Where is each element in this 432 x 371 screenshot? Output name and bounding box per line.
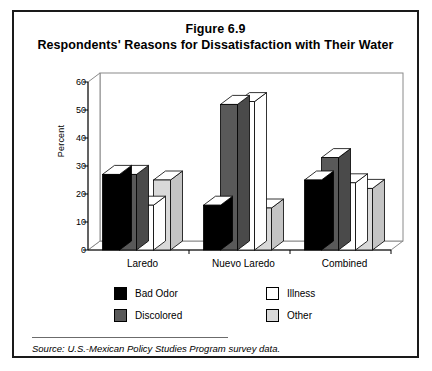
legend-entry: Other bbox=[266, 309, 312, 322]
legend-label: Bad Odor bbox=[135, 288, 178, 299]
legend-label: Discolored bbox=[135, 310, 182, 321]
title-line-text: Respondents' Reasons for Dissatisfaction… bbox=[14, 37, 417, 53]
x-axis-category-label: Nuevo Laredo bbox=[212, 258, 275, 269]
chart-legend: Bad OdorDiscoloredIllnessOther bbox=[114, 287, 364, 333]
plot-left-wall bbox=[88, 73, 100, 250]
source-note: Source: U.S.-Mexican Policy Studies Prog… bbox=[32, 343, 280, 354]
bar-chart-svg bbox=[62, 62, 407, 277]
legend-swatch-other bbox=[266, 309, 279, 322]
x-axis-category-label: Combined bbox=[322, 258, 368, 269]
legend-entry: Illness bbox=[266, 287, 315, 300]
x-axis-category-label: Laredo bbox=[127, 258, 158, 269]
legend-entry: Discolored bbox=[114, 309, 182, 322]
figure-frame: Figure 6.9 Respondents' Reasons for Diss… bbox=[12, 10, 419, 358]
legend-swatch-bad-odor bbox=[114, 287, 127, 300]
legend-swatch-discolored bbox=[114, 309, 127, 322]
legend-label: Other bbox=[287, 310, 312, 321]
title-line-number: Figure 6.9 bbox=[14, 21, 417, 37]
x-axis-category-labels: LaredoNuevo LaredoCombined bbox=[62, 258, 407, 278]
legend-swatch-illness bbox=[266, 287, 279, 300]
legend-entry: Bad Odor bbox=[114, 287, 178, 300]
source-divider bbox=[32, 337, 228, 338]
bar-bad-odor bbox=[103, 165, 132, 250]
bar-bad-odor bbox=[204, 196, 233, 250]
bar-bad-odor bbox=[305, 171, 334, 250]
legend-label: Illness bbox=[287, 288, 315, 299]
figure-title: Figure 6.9 Respondents' Reasons for Diss… bbox=[14, 21, 417, 53]
plot-area: Percent 0102030405060 LaredoNuevo Laredo… bbox=[62, 62, 407, 277]
